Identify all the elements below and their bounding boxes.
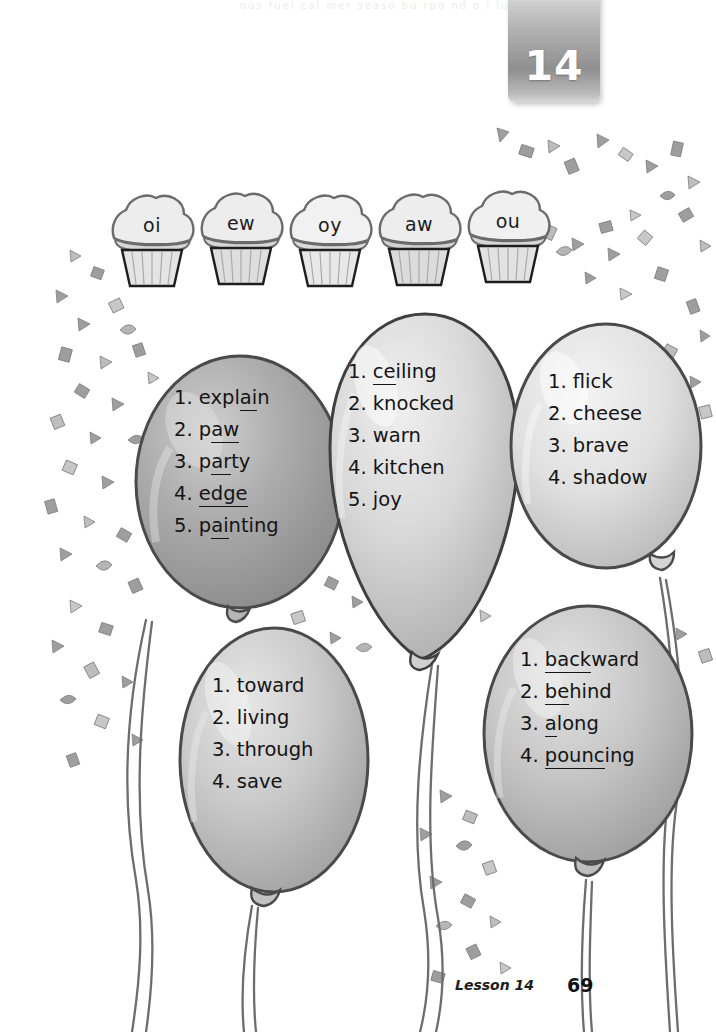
list-item: 3. party: [174, 446, 279, 478]
item-number: 3.: [520, 712, 539, 735]
item-text-post: ward: [591, 648, 639, 671]
item-text-underlined: ai: [240, 386, 257, 411]
list-item: 1. ceiling: [348, 356, 454, 388]
cupcake-oy: oy: [282, 186, 378, 290]
item-text-pre: expl: [199, 386, 240, 409]
item-number: 5.: [174, 514, 193, 537]
item-number: 4.: [212, 770, 231, 793]
item-number: 2.: [174, 418, 193, 441]
list-item: 2. cheese: [548, 398, 648, 430]
balloon-left-lower: 1. toward 2. living 3. through 4. save: [176, 622, 376, 916]
word-list-right-upper: 1. flick 2. cheese 3. brave 4. shadow: [548, 366, 648, 494]
item-text-underlined: pounc: [545, 744, 605, 769]
list-item: 4. edge: [174, 478, 279, 510]
item-text-pre: p: [199, 418, 211, 441]
list-item: 1. flick: [548, 366, 648, 398]
item-text-post: nting: [229, 514, 279, 537]
list-item: 1. toward: [212, 670, 313, 702]
item-number: 2.: [348, 392, 367, 415]
item-number: 4.: [174, 482, 193, 505]
footer-lesson-label: Lesson 14: [455, 977, 534, 993]
list-item: 4. kitchen: [348, 452, 454, 484]
item-number: 4.: [520, 744, 539, 767]
list-item: 1. backward: [520, 644, 639, 676]
item-text-pre: p: [199, 450, 211, 473]
list-item: 2. behind: [520, 676, 639, 708]
item-number: 4.: [548, 466, 567, 489]
item-number: 1.: [174, 386, 193, 409]
item-text-pre: joy: [373, 488, 402, 511]
item-number: 1.: [212, 674, 231, 697]
lesson-number: 14: [524, 42, 583, 90]
word-list-left-upper: 1. explain 2. paw 3. party 4. edge 5. pa…: [174, 382, 279, 542]
list-item: 3. along: [520, 708, 639, 740]
page-bleed-through-text: ous fuel cal mer seaso bu rpo nd o i lu: [240, 0, 540, 12]
item-text-underlined: ai: [211, 514, 228, 539]
cupcake-aw: aw: [371, 185, 467, 289]
item-number: 3.: [174, 450, 193, 473]
item-text-post: long: [557, 712, 599, 735]
list-item: 5. joy: [348, 484, 454, 516]
item-text-pre: p: [199, 514, 211, 537]
list-item: 3. warn: [348, 420, 454, 452]
list-item: 3. brave: [548, 430, 648, 462]
cupcake-label-ou: ou: [460, 210, 556, 232]
balloon-right-lower: 1. backward 2. behind 3. along 4. pounci…: [480, 600, 700, 894]
item-number: 1.: [548, 370, 567, 393]
word-list-right-lower: 1. backward 2. behind 3. along 4. pounci…: [520, 644, 639, 772]
item-number: 2.: [520, 680, 539, 703]
item-text-post: hind: [569, 680, 612, 703]
item-text-post: ty: [231, 450, 250, 473]
item-text-underlined: back: [545, 648, 591, 673]
item-text-pre: knocked: [373, 392, 454, 415]
cupcake-ew: ew: [193, 184, 289, 288]
word-list-left-lower: 1. toward 2. living 3. through 4. save: [212, 670, 313, 798]
item-number: 1.: [348, 360, 367, 383]
item-text-underlined: ce: [373, 360, 396, 385]
item-text-underlined: aw: [211, 418, 239, 443]
item-number: 2.: [548, 402, 567, 425]
cupcake-label-aw: aw: [371, 213, 467, 235]
worksheet-page: ous fuel cal mer seaso bu rpo nd o i lu …: [0, 0, 716, 1032]
cupcake-oi: oi: [104, 186, 200, 290]
item-text-pre: save: [237, 770, 283, 793]
list-item: 2. knocked: [348, 388, 454, 420]
item-text-pre: cheese: [573, 402, 642, 425]
item-text-post: ing: [605, 744, 635, 767]
footer-page-number: 69: [567, 974, 593, 996]
item-text-post: iling: [396, 360, 437, 383]
item-number: 3.: [548, 434, 567, 457]
item-text-underlined: edge: [199, 482, 248, 507]
item-number: 3.: [212, 738, 231, 761]
item-number: 2.: [212, 706, 231, 729]
cupcake-label-oy: oy: [282, 214, 378, 236]
item-text-pre: toward: [237, 674, 305, 697]
lesson-number-tab: 14: [508, 0, 600, 102]
list-item: 5. painting: [174, 510, 279, 542]
list-item: 1. explain: [174, 382, 279, 414]
list-item: 4. pouncing: [520, 740, 639, 772]
list-item: 4. save: [212, 766, 313, 798]
item-number: 4.: [348, 456, 367, 479]
item-text-pre: living: [237, 706, 290, 729]
list-item: 2. living: [212, 702, 313, 734]
item-number: 5.: [348, 488, 367, 511]
item-text-post: n: [257, 386, 269, 409]
item-text-pre: shadow: [573, 466, 648, 489]
item-text-pre: brave: [573, 434, 629, 457]
item-text-underlined: be: [545, 680, 569, 705]
item-text-underlined: a: [545, 712, 557, 737]
list-item: 3. through: [212, 734, 313, 766]
item-text-pre: through: [237, 738, 314, 761]
list-item: 2. paw: [174, 414, 279, 446]
balloon-left-upper: 1. explain 2. paw 3. party 4. edge 5. pa…: [132, 352, 352, 636]
cupcake-ou: ou: [460, 182, 556, 286]
item-text-underlined: ar: [211, 450, 231, 475]
list-item: 4. shadow: [548, 462, 648, 494]
balloon-right-upper: 1. flick 2. cheese 3. brave 4. shadow: [508, 318, 708, 592]
item-text-pre: kitchen: [373, 456, 445, 479]
item-number: 3.: [348, 424, 367, 447]
cupcake-label-ew: ew: [193, 212, 289, 234]
item-number: 1.: [520, 648, 539, 671]
cupcake-row: oi ew: [104, 186, 556, 294]
